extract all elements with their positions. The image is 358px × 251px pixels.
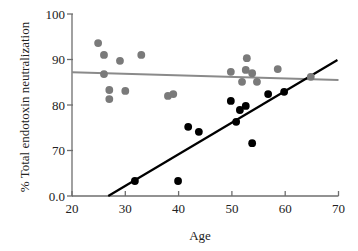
gray-regression-line <box>72 72 339 80</box>
data-point <box>105 86 113 94</box>
data-point <box>243 54 251 62</box>
y-tick-label: 0.0 <box>49 189 65 204</box>
data-point <box>227 68 235 76</box>
data-point <box>100 51 108 59</box>
data-point <box>307 73 315 81</box>
data-point <box>280 88 288 96</box>
data-point <box>195 128 203 136</box>
data-point <box>137 51 145 59</box>
data-point <box>131 177 139 185</box>
x-tick-label: 30 <box>119 201 132 216</box>
regression-lines <box>72 60 339 196</box>
data-point <box>232 118 240 126</box>
y-tick-label: 90 <box>52 52 65 67</box>
data-point <box>100 70 108 78</box>
data-point <box>121 87 129 95</box>
data-point <box>174 177 182 185</box>
y-axis-ticks: 1009080700.0 <box>46 7 74 204</box>
x-tick-label: 70 <box>332 201 345 216</box>
data-points <box>94 39 314 185</box>
x-axis-ticks: 203040506070 <box>66 191 346 216</box>
data-point <box>238 78 246 86</box>
x-axis-title: Age <box>189 228 211 243</box>
x-tick-label: 60 <box>279 201 292 216</box>
x-tick-label: 40 <box>172 201 185 216</box>
scatter-chart: 1009080700.0 203040506070 Age % Total en… <box>0 0 358 251</box>
data-point <box>184 123 192 131</box>
data-point <box>253 78 261 86</box>
data-point <box>227 97 235 105</box>
y-axis-title: % Total endotoxin neutralization <box>17 21 32 192</box>
y-tick-label: 100 <box>46 7 66 22</box>
x-tick-label: 50 <box>225 201 238 216</box>
data-point <box>94 39 102 47</box>
data-point <box>169 90 177 98</box>
data-point <box>264 90 272 98</box>
data-point <box>248 139 256 147</box>
y-tick-label: 70 <box>52 143 65 158</box>
data-point <box>242 102 250 110</box>
data-point <box>274 65 282 73</box>
data-point <box>116 57 124 65</box>
x-tick-label: 20 <box>66 201 79 216</box>
data-point <box>248 69 256 77</box>
y-tick-label: 80 <box>52 98 65 113</box>
data-point <box>105 95 113 103</box>
black-regression-line <box>108 60 337 196</box>
